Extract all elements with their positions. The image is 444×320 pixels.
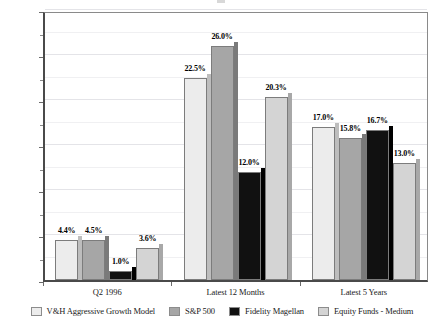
bar <box>312 127 335 280</box>
legend-item[interactable]: S&P 500 <box>169 306 215 316</box>
legend-swatch-icon <box>169 307 180 316</box>
bar-top-shadow <box>288 93 292 97</box>
legend-label: V&H Aggressive Growth Model <box>47 306 156 316</box>
bar-side-shadow <box>288 97 292 280</box>
bar-side-shadow <box>159 248 163 280</box>
x-axis-category-label: Latest 12 Months <box>171 287 299 297</box>
bar-face <box>109 271 132 280</box>
bar-face <box>238 172 261 280</box>
x-axis-tick <box>300 282 301 286</box>
bar-value-label: 4.5% <box>76 226 111 235</box>
gridline-major <box>45 9 427 10</box>
x-axis-category-label: Latest 5 Years <box>300 287 428 297</box>
legend-item[interactable]: Equity Funds - Medium <box>318 306 413 316</box>
bar <box>82 240 105 281</box>
bar <box>393 163 416 280</box>
bar-face <box>366 130 389 280</box>
bar <box>238 172 261 280</box>
bar-value-label: 20.3% <box>259 83 294 92</box>
bar-chart: 0.0%5.0%10.0%15.0%20.0%25.0%30.0% 4.4%4.… <box>0 0 444 320</box>
x-axis-tick <box>171 282 172 286</box>
bar <box>55 240 78 280</box>
bar <box>109 271 132 280</box>
bar-face <box>265 97 288 280</box>
bar-value-label: 13.0% <box>387 149 422 158</box>
bar-face <box>211 46 234 280</box>
bar-value-label: 26.0% <box>205 32 240 41</box>
bar-face <box>82 240 105 281</box>
bar-face <box>55 240 78 280</box>
bar-value-label: 17.0% <box>306 113 341 122</box>
chart-legend: V&H Aggressive Growth ModelS&P 500Fideli… <box>0 303 444 319</box>
bar-value-label: 16.7% <box>360 116 395 125</box>
x-axis-tick <box>43 282 44 286</box>
bar-value-label: 15.8% <box>333 124 368 133</box>
bar-top-shadow <box>416 159 420 163</box>
bar-top-shadow <box>389 126 393 130</box>
legend-item[interactable]: Fidelity Magellan <box>229 306 304 316</box>
bar <box>339 138 362 280</box>
plot-inner: 4.4%4.5%1.0%3.6%22.5%26.0%12.0%20.3%17.0… <box>45 13 427 280</box>
legend-label: S&P 500 <box>185 306 215 316</box>
bar-face <box>184 78 207 281</box>
legend-swatch-icon <box>318 307 329 316</box>
bar-face <box>339 138 362 280</box>
legend-label: Fidelity Magellan <box>245 306 304 316</box>
bar <box>366 130 389 280</box>
bar-value-label: 12.0% <box>232 158 267 167</box>
bar-face <box>136 248 159 280</box>
bar-top-shadow <box>234 42 238 46</box>
bar-face <box>312 127 335 280</box>
bar <box>265 97 288 280</box>
legend-swatch-icon <box>229 307 240 316</box>
bar-value-label: 1.0% <box>103 257 138 266</box>
bar <box>211 46 234 280</box>
legend-item[interactable]: V&H Aggressive Growth Model <box>31 306 156 316</box>
bar <box>184 78 207 281</box>
legend-label: Equity Funds - Medium <box>334 306 413 316</box>
legend-swatch-icon <box>31 307 42 316</box>
bar-value-label: 22.5% <box>178 64 213 73</box>
bar-value-label: 3.6% <box>130 234 165 243</box>
bar-face <box>393 163 416 280</box>
bar-top-shadow <box>105 236 109 240</box>
bar <box>136 248 159 280</box>
bar-top-shadow <box>159 244 163 248</box>
scan-artifact <box>217 0 225 3</box>
x-axis-category-label: Q2 1996 <box>43 287 171 297</box>
plot-area: 4.4%4.5%1.0%3.6%22.5%26.0%12.0%20.3%17.0… <box>43 12 428 282</box>
bar-side-shadow <box>416 163 420 280</box>
